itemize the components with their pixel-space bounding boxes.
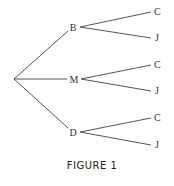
tree-diagram: B M D C J C J C J FIGURE 1: [0, 0, 174, 186]
node-m: M: [70, 74, 79, 85]
edge-m-c: [81, 65, 151, 79]
leaf-d-c: C: [154, 112, 161, 123]
leaf-d-j: J: [155, 139, 159, 150]
node-b: B: [70, 22, 77, 33]
leaf-b-j: J: [155, 32, 159, 43]
edge-d-c: [80, 118, 151, 132]
leaf-m-c: C: [154, 59, 161, 70]
edge-b-j: [80, 27, 151, 38]
figure-caption: FIGURE 1: [67, 160, 118, 171]
leaf-m-j: J: [155, 85, 159, 96]
edge-b-c: [80, 12, 151, 27]
edge-d-j: [80, 132, 151, 145]
edge-root-d: [14, 79, 68, 128]
edge-m-j: [81, 79, 151, 91]
leaf-b-c: C: [154, 6, 161, 17]
edge-root-b: [14, 31, 68, 79]
node-d: D: [69, 127, 76, 138]
